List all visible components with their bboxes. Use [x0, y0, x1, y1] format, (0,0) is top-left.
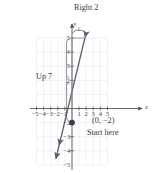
- y-tick-label--2: −2: [63, 119, 70, 126]
- y-tick-label-2: 2: [66, 77, 69, 84]
- y-tick-label--4: −4: [63, 147, 70, 154]
- x-tick-label-2: 2: [85, 110, 88, 117]
- y-tick-label--3: −3: [63, 133, 70, 140]
- x-tick-label-1: 1: [77, 110, 80, 117]
- right-brace: [73, 28, 85, 34]
- plotted-line: [56, 37, 85, 159]
- y-axis-label: y: [74, 20, 77, 27]
- annotation-right-2: Right 2: [74, 3, 98, 12]
- y-tick-label-5: 5: [66, 34, 69, 41]
- x-tick-label--2: −2: [53, 110, 60, 117]
- x-axis-label: x: [145, 103, 148, 110]
- annotation-start-here: Start here: [87, 128, 119, 137]
- y-tick-label-4: 4: [66, 48, 69, 55]
- y-tick-label-3: 3: [66, 62, 69, 69]
- annotation-up-7: Up 7: [36, 72, 52, 81]
- x-tick-label--4: −4: [39, 110, 46, 117]
- x-tick-label--1: −1: [60, 110, 67, 117]
- x-tick-label--5: −5: [32, 110, 39, 117]
- y-tick-label--5: −5: [63, 161, 70, 168]
- x-tick-label--3: −3: [46, 110, 53, 117]
- graph-figure: −5 −4 −3 −2 −1 1 2 3 4 5 5 4 3 2 −2 −3 −…: [0, 0, 156, 175]
- graph-canvas: [0, 0, 156, 175]
- annotation-point-coords: (0, −2): [92, 116, 114, 125]
